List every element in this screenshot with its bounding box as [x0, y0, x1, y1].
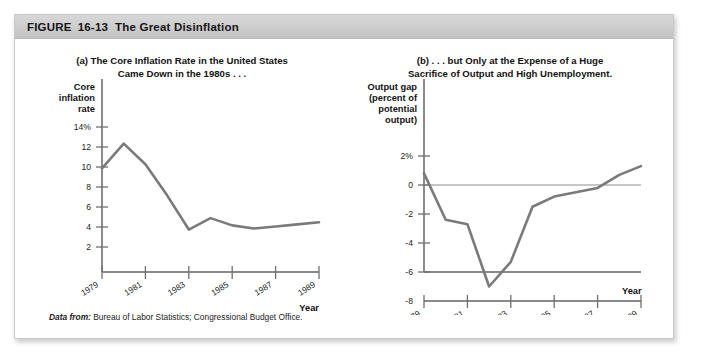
chart-b-xtick-1985: 1985	[531, 308, 552, 315]
chart-b-ytick-neg4: -4	[405, 238, 413, 248]
chart-b-xtick-1987: 1987	[575, 308, 596, 315]
source-note: Data from: Bureau of Labor Statistics; C…	[49, 312, 303, 322]
chart-b-ylabel-line2: (percent of	[369, 93, 418, 103]
chart-a-ylabel-line1: Core	[74, 82, 95, 92]
chart-a-ytick-2: 2	[86, 242, 91, 252]
figure-title: The Great Disinflation	[115, 21, 239, 33]
figure-panels: (a) The Core Inflation Rate in the Unite…	[15, 39, 673, 338]
chart-b-xtick-1983: 1983	[488, 308, 509, 315]
chart-a-xtick-1985: 1985	[209, 279, 230, 298]
chart-b-xtick-1979: 1979	[401, 308, 422, 315]
figure-header-bar: FIGURE 16-13 The Great Disinflation	[15, 15, 673, 39]
chart-a-ylabel-line3: rate	[78, 104, 95, 114]
chart-b-ytick-neg8: -8	[405, 296, 413, 306]
panel-a: (a) The Core Inflation Rate in the Unite…	[17, 39, 347, 315]
figure-card: FIGURE 16-13 The Great Disinflation (a) …	[14, 14, 674, 339]
chart-a-ytick-12: 12	[81, 142, 91, 152]
chart-a-ytick-14: 14%	[74, 122, 92, 132]
chart-a-xtick-1979: 1979	[79, 279, 100, 298]
source-lead: Data from:	[49, 312, 91, 322]
chart-b-series-line	[424, 166, 641, 286]
chart-b: Output gap (percent of potential output)	[345, 39, 675, 315]
chart-b-ytick-2: 2%	[401, 151, 414, 161]
chart-b-ylabel-line4: output)	[385, 115, 417, 125]
chart-b-ytick-neg6: -6	[405, 267, 413, 277]
chart-a-series-line	[102, 144, 319, 230]
panel-b: (b) . . . but Only at the Expense of a H…	[345, 39, 675, 315]
chart-b-xtick-1981: 1981	[444, 308, 465, 315]
chart-a-xtick-1989: 1989	[296, 279, 317, 298]
chart-a-ytick-4: 4	[86, 222, 91, 232]
chart-a-xtick-1987: 1987	[253, 279, 274, 298]
figure-label: FIGURE	[27, 21, 72, 33]
chart-a: Core inflation rate 14% 12	[17, 39, 347, 315]
chart-a-ytick-8: 8	[86, 182, 91, 192]
chart-b-xtick-1989: 1989	[618, 308, 639, 315]
chart-b-xlabel: Year	[622, 286, 642, 296]
chart-a-xtick-1981: 1981	[122, 279, 143, 298]
chart-a-ytick-10: 10	[81, 162, 91, 172]
chart-b-ytick-neg2: -2	[405, 209, 413, 219]
source-text: Bureau of Labor Statistics; Congressiona…	[93, 312, 302, 322]
chart-a-ytick-6: 6	[86, 202, 91, 212]
figure-number: 16-13	[78, 21, 108, 33]
chart-a-xtick-1983: 1983	[166, 279, 187, 298]
chart-b-ytick-0: 0	[408, 180, 413, 190]
chart-b-ylabel-line3: potential	[378, 104, 417, 114]
chart-a-ylabel-line2: inflation	[59, 93, 95, 103]
chart-b-ylabel-line1: Output gap	[367, 82, 417, 92]
